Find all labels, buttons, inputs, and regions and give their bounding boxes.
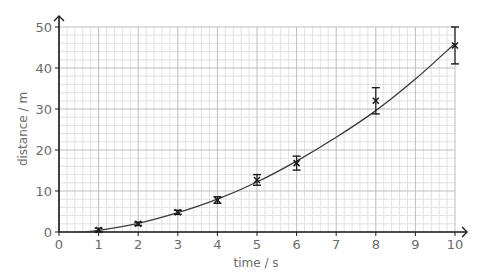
y-tick-label: 30 [35, 102, 52, 117]
axes [54, 16, 467, 237]
x-axis-label: time / s [233, 256, 278, 270]
x-tick-label: 2 [134, 237, 142, 252]
x-tick-label: 1 [94, 237, 102, 252]
x-tick-label: 10 [447, 237, 464, 252]
grid-major [59, 27, 455, 232]
data-points [95, 27, 459, 233]
y-tick-label: 10 [35, 184, 52, 199]
x-tick-label: 5 [253, 237, 261, 252]
y-tick-label: 50 [35, 20, 52, 35]
x-tick-label: 8 [372, 237, 380, 252]
y-axis-label: distance / m [16, 92, 30, 166]
x-tick-label: 4 [213, 237, 221, 252]
distance-time-chart: 01234567891001020304050 time / s distanc… [0, 0, 486, 280]
x-tick-label: 6 [292, 237, 300, 252]
y-tick-label: 0 [44, 225, 52, 240]
x-tick-label: 7 [332, 237, 340, 252]
y-tick-label: 20 [35, 143, 52, 158]
y-tick-label: 40 [35, 61, 52, 76]
x-tick-label: 3 [174, 237, 182, 252]
x-tick-label: 9 [411, 237, 419, 252]
x-tick-label: 0 [55, 237, 63, 252]
best-fit-curve [79, 43, 455, 232]
